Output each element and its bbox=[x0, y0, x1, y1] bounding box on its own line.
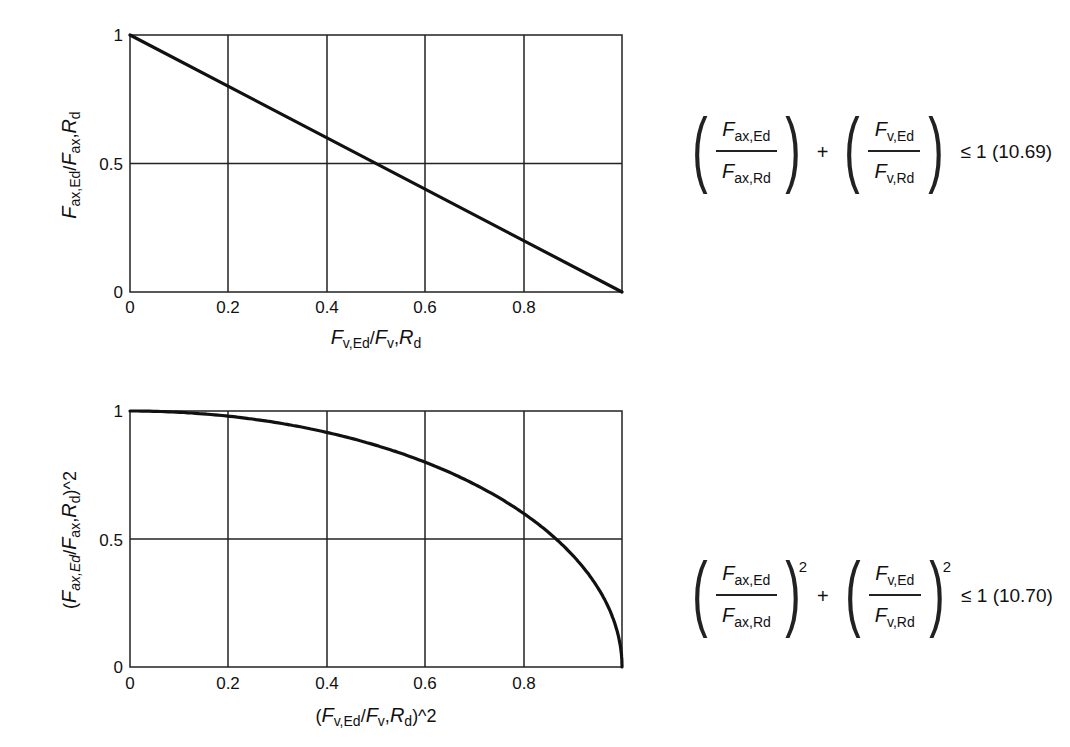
equation-10-70: ( Fax,Ed Fax,Rd ) 2 + ( Fv,Ed Fv,Rd ) 2 … bbox=[686, 554, 1053, 638]
equation-rhs: ≤ 1 (10.70) bbox=[961, 585, 1053, 607]
bottom-plot: 1 0.5 0 0 0.2 0.4 0.6 0.8 (Fv,Ed/Fv,Rd)^… bbox=[58, 402, 622, 729]
denominator: Fax,Rd bbox=[716, 596, 777, 630]
numerator: Fv,Ed bbox=[869, 562, 920, 594]
xtick-0.6: 0.6 bbox=[413, 674, 437, 693]
ytick-1: 1 bbox=[114, 402, 123, 421]
fraction-axial: Fax,Ed Fax,Rd bbox=[716, 118, 777, 186]
equation-rhs: ≤ 1 (10.69) bbox=[960, 141, 1052, 163]
ytick-0.5: 0.5 bbox=[99, 155, 123, 174]
left-paren: ( bbox=[845, 106, 860, 190]
xtick-0.2: 0.2 bbox=[216, 298, 240, 317]
left-paren: ( bbox=[692, 106, 707, 190]
bottom-plot-xticks: 0 0.2 0.4 0.6 0.8 bbox=[125, 674, 536, 693]
left-paren: ( bbox=[845, 550, 860, 634]
xtick-0: 0 bbox=[125, 298, 134, 317]
top-plot-x-axis-label: Fv,Ed/Fv,Rd bbox=[331, 326, 422, 351]
ytick-0: 0 bbox=[114, 283, 123, 302]
numerator: Fv,Ed bbox=[869, 118, 920, 150]
fraction-shear: Fv,Ed Fv,Rd bbox=[868, 118, 920, 186]
exponent: 2 bbox=[799, 558, 807, 575]
left-paren: ( bbox=[692, 550, 707, 634]
ytick-0: 0 bbox=[114, 658, 123, 677]
top-plot-y-axis-label: Fax,Ed/Fax,Rd bbox=[58, 111, 83, 218]
fraction-shear: Fv,Ed Fv,Rd bbox=[869, 562, 921, 630]
xtick-0.2: 0.2 bbox=[216, 674, 240, 693]
top-plot-yticks: 1 0.5 0 bbox=[99, 26, 123, 302]
xtick-0.4: 0.4 bbox=[315, 298, 339, 317]
denominator: Fax,Rd bbox=[716, 152, 777, 186]
ytick-1: 1 bbox=[114, 26, 123, 45]
fraction-axial: Fax,Ed Fax,Rd bbox=[716, 562, 777, 630]
right-paren: ) bbox=[785, 106, 800, 190]
xtick-0.8: 0.8 bbox=[512, 298, 536, 317]
exponent: 2 bbox=[943, 558, 951, 575]
bottom-plot-y-axis-label: (Fax,Ed/Fax,Rd)^2 bbox=[58, 471, 83, 609]
xtick-0.6: 0.6 bbox=[413, 298, 437, 317]
denominator: Fv,Rd bbox=[869, 596, 921, 630]
bottom-plot-x-axis-label: (Fv,Ed/Fv,Rd)^2 bbox=[315, 704, 436, 729]
top-plot-xticks: 0 0.2 0.4 0.6 0.8 bbox=[125, 298, 536, 317]
plus-sign: + bbox=[817, 585, 829, 608]
top-plot: 1 0.5 0 0 0.2 0.4 0.6 0.8 Fv,Ed/Fv,Rd Fa… bbox=[58, 26, 622, 351]
numerator: Fax,Ed bbox=[716, 118, 776, 150]
right-paren: ) bbox=[929, 106, 944, 190]
ytick-0.5: 0.5 bbox=[99, 531, 123, 550]
xtick-0: 0 bbox=[125, 674, 134, 693]
xtick-0.4: 0.4 bbox=[315, 674, 339, 693]
equation-10-69: ( Fax,Ed Fax,Rd ) + ( Fv,Ed Fv,Rd ) ≤ 1 … bbox=[686, 110, 1052, 194]
denominator: Fv,Rd bbox=[868, 152, 920, 186]
bottom-plot-yticks: 1 0.5 0 bbox=[99, 402, 123, 677]
xtick-0.8: 0.8 bbox=[512, 674, 536, 693]
bottom-plot-grid bbox=[130, 411, 622, 667]
numerator: Fax,Ed bbox=[716, 562, 776, 594]
plus-sign: + bbox=[817, 141, 829, 164]
